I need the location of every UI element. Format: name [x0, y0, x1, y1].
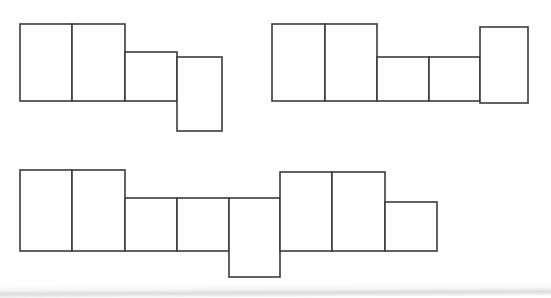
net3-face-8	[385, 202, 437, 251]
net3-face-7	[332, 172, 385, 251]
net3-face-1	[20, 170, 72, 251]
net3-face-3	[125, 198, 177, 251]
net3-face-6	[280, 172, 332, 251]
diagram-canvas: Net 1 Net 2 Net 3 Three rectangular nets…	[0, 0, 551, 298]
net-figure-3-svg	[0, 0, 551, 298]
net3-face-5	[229, 198, 280, 277]
net3-face-2	[72, 170, 125, 251]
net-figure-3	[0, 0, 551, 298]
net3-face-4	[177, 198, 229, 251]
